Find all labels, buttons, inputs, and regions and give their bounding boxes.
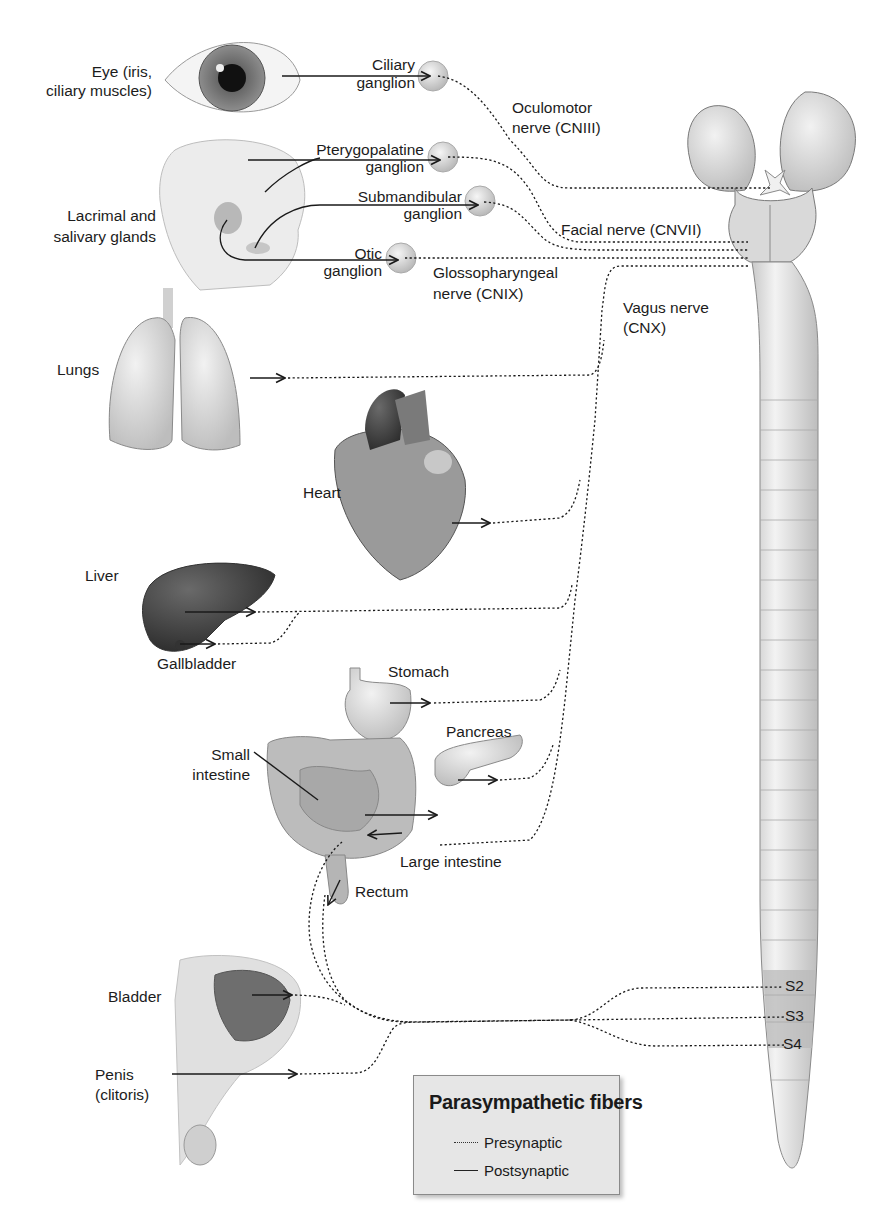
eye-illustration: [165, 43, 300, 112]
label-penis-clitoris: Penis (clitoris): [95, 1065, 149, 1105]
label-ciliary-ganglion: Ciliary ganglion: [355, 56, 415, 92]
label-liver: Liver: [85, 566, 119, 585]
label-stomach: Stomach: [388, 662, 449, 681]
dotted-line-swatch: [454, 1142, 478, 1143]
label-bladder: Bladder: [108, 987, 161, 1006]
label-pterygopalatine-ganglion: Pterygopalatine ganglion: [290, 141, 424, 175]
legend-title: Parasympathetic fibers: [429, 1091, 643, 1114]
label-large-intestine: Large intestine: [400, 852, 502, 871]
label-segment-s4: S4: [783, 1034, 802, 1053]
label-submandibular-ganglion: Submandibular ganglion: [330, 188, 462, 222]
label-segment-s2: S2: [785, 976, 804, 995]
intestines-illustration: [267, 737, 416, 904]
lungs-illustration: [109, 288, 240, 450]
brainstem: [688, 92, 856, 262]
pancreas-illustration: [435, 735, 522, 786]
legend-box: Parasympathetic fibers Presynaptic Posts…: [413, 1075, 620, 1195]
label-lacrimal-salivary-glands: Lacrimal and salivary glands: [28, 205, 156, 247]
label-small-intestine: Small intestine: [180, 745, 250, 785]
legend-item-presynaptic: Presynaptic: [454, 1134, 562, 1151]
label-rectum: Rectum: [355, 882, 408, 901]
label-pancreas: Pancreas: [446, 722, 511, 741]
label-facial-nerve: Facial nerve (CNVII): [561, 220, 701, 239]
label-gallbladder: Gallbladder: [157, 654, 236, 673]
label-vagus-nerve: Vagus nerve (CNX): [623, 298, 709, 338]
label-heart: Heart: [303, 483, 341, 502]
label-eye: Eye (iris, ciliary muscles): [20, 62, 152, 100]
anatomy-illustration: [0, 0, 871, 1215]
liver-illustration: [143, 563, 276, 651]
label-oculomotor-nerve: Oculomotor nerve (CNIII): [512, 98, 601, 138]
legend-label: Postsynaptic: [484, 1162, 569, 1179]
spinal-cord: [752, 262, 818, 1168]
legend-label: Presynaptic: [484, 1134, 562, 1151]
legend-item-postsynaptic: Postsynaptic: [454, 1162, 569, 1179]
label-glossopharyngeal-nerve: Glossopharyngeal nerve (CNIX): [433, 262, 558, 304]
label-lungs: Lungs: [57, 360, 99, 379]
heart-illustration: [334, 389, 465, 580]
pelvis-illustration: [175, 955, 301, 1165]
parasympathetic-diagram: Eye (iris, ciliary muscles) Ciliary gang…: [0, 0, 871, 1215]
solid-line-swatch: [454, 1170, 478, 1171]
label-otic-ganglion: Otic ganglion: [320, 245, 382, 279]
label-segment-s3: S3: [785, 1006, 804, 1025]
